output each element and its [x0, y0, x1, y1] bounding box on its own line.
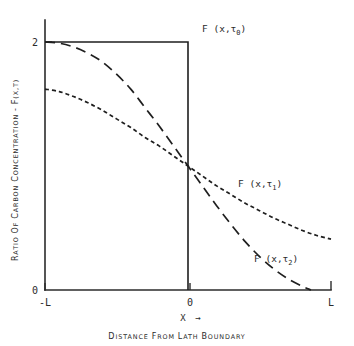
annotation-f-x-tau2: F (x,τ2)	[254, 253, 298, 267]
y-axis-title: RATIO OF CARBON CONCENTRATION - F(X,Τ)	[11, 79, 20, 261]
chart-figure: 2 0 -L 0 L F (x,τ0) F (x,τ1) F (x,τ2) X …	[0, 0, 354, 346]
annotation-f-x-tau1: F (x,τ1)	[238, 178, 282, 192]
curve-f-x-tau0	[45, 42, 188, 290]
carbon-concentration-chart: 2 0 -L 0 L F (x,τ0) F (x,τ1) F (x,τ2) X …	[0, 0, 354, 346]
y-tick-label-top: 2	[32, 37, 38, 48]
x-axis-arrow-icon: →	[195, 313, 201, 323]
x-axis-title: DISTANCE FROM LATH BOUNDARY	[108, 332, 245, 341]
annotation-f-x-tau0: F (x,τ0)	[202, 23, 246, 37]
x-axis-inline-label: X →	[180, 313, 201, 323]
x-axis-variable: X	[180, 313, 186, 323]
y-tick-label-bottom: 0	[32, 285, 38, 296]
curve-annotations: F (x,τ0) F (x,τ1) F (x,τ2)	[202, 23, 298, 267]
x-tick-label-minus-l: -L	[39, 297, 51, 308]
y-tick-labels: 2 0	[32, 37, 38, 296]
x-tick-label-zero: 0	[187, 297, 193, 308]
x-tick-label-l: L	[328, 297, 334, 308]
x-tick-labels: -L 0 L	[39, 297, 334, 308]
